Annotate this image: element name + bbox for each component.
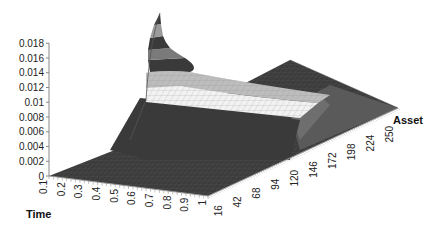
surface-chart: 00.0020.0040.0060.0080.010.0120.0140.016… [0,0,437,228]
z-tick-label: 0.004 [19,141,44,152]
x-tick-label: 0.6 [126,191,137,205]
z-tick-label: 0.012 [19,82,44,93]
y-tick-label: 16 [213,205,224,217]
y-axis-title: Asset [393,114,423,126]
y-tick-label: 198 [346,143,357,160]
y-tick-label: 68 [251,187,262,199]
y-tick-label: 250 [384,125,395,142]
z-tick-label: 0.01 [25,97,45,108]
y-tick-label: 172 [327,152,338,169]
z-tick-label: 0.018 [19,38,44,49]
x-axis-title: Time [26,208,51,220]
surface [49,13,398,196]
x-tick-label: 0.1 [38,180,49,194]
x-tick-label: 1 [197,200,208,206]
z-tick-label: 0.014 [19,67,44,78]
y-tick-label: 146 [308,161,319,178]
y-tick-label: 94 [270,178,281,190]
x-tick-label: 0.8 [162,195,173,209]
y-tick-label: 224 [365,134,376,151]
z-tick-label: 0.006 [19,126,44,137]
z-tick-label: 0.008 [19,112,44,123]
y-tick-label: 42 [232,196,243,208]
z-tick-label: 0 [38,171,44,182]
x-tick-label: 0.5 [109,188,120,202]
z-axis: 00.0020.0040.0060.0080.010.0120.0140.016… [19,38,49,182]
x-tick-label: 0.3 [73,184,84,198]
x-tick-label: 0.7 [144,193,155,207]
z-tick-label: 0.016 [19,53,44,64]
y-tick-label: 120 [289,169,300,186]
x-tick-label: 0.4 [91,186,102,200]
x-tick-label: 0.9 [179,197,190,211]
z-tick-label: 0.002 [19,156,44,167]
x-tick-label: 0.2 [56,182,67,196]
